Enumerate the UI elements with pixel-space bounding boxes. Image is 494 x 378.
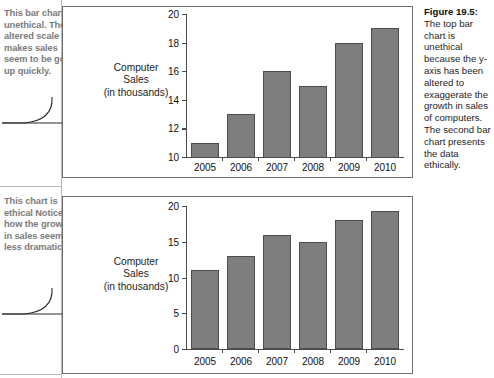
figure-number: Figure 19.5: bbox=[424, 6, 494, 18]
bottom-chart-ylabel-10: 10 bbox=[157, 273, 179, 284]
bottom-chart-ylabel-0: 0 bbox=[157, 344, 179, 355]
figure-caption: Figure 19.5:The top bar chart is unethic… bbox=[424, 6, 494, 186]
top-chart-ytick-12 bbox=[182, 128, 186, 129]
bottom-chart-y-axis bbox=[186, 206, 187, 350]
bottom-chart-xlabel-2009: 2009 bbox=[329, 356, 369, 367]
bottom-chart-ylabel-20: 20 bbox=[157, 201, 179, 212]
bottom-chart-bar-2005 bbox=[191, 270, 219, 349]
page-rule-divider-bottom bbox=[0, 374, 61, 375]
bottom-chart-ytick-15 bbox=[182, 242, 186, 243]
axis-title-line-1: Computer bbox=[88, 256, 184, 268]
top-chart-bar-2006 bbox=[227, 114, 255, 158]
bottom-chart-ytick-5 bbox=[182, 313, 186, 314]
top-chart-ylabel-18: 18 bbox=[157, 38, 179, 49]
top-chart-bar-2007 bbox=[263, 71, 291, 158]
top-chart-ylabel-10: 10 bbox=[157, 152, 179, 163]
top-chart-xtick-0 bbox=[222, 157, 223, 161]
top-chart-xlabel-2009: 2009 bbox=[329, 162, 369, 173]
bottom-chart-bar-2010 bbox=[371, 211, 399, 349]
bottom-chart-ylabel-5: 5 bbox=[157, 308, 179, 319]
top-chart-ytick-14 bbox=[182, 100, 186, 101]
bottom-chart-xtick-4 bbox=[366, 349, 367, 353]
top-chart-ytick-18 bbox=[182, 43, 186, 44]
bottom-chart-xlabel-2008: 2008 bbox=[293, 356, 333, 367]
bottom-chart-xtick-1 bbox=[258, 349, 259, 353]
bottom-chart-xlabel-2006: 2006 bbox=[221, 356, 261, 367]
top-chart-xtick-4 bbox=[366, 157, 367, 161]
top-chart-xlabel-2010: 2010 bbox=[365, 162, 405, 173]
bottom-chart-xtick-3 bbox=[330, 349, 331, 353]
bottom-chart-bar-2009 bbox=[335, 220, 363, 349]
bottom-chart-bar-2007 bbox=[263, 235, 291, 349]
top-chart-bar-2005 bbox=[191, 143, 219, 158]
top-chart-xtick-2 bbox=[294, 157, 295, 161]
top-chart-ylabel-12: 12 bbox=[157, 123, 179, 134]
bottom-chart-bar-2006 bbox=[227, 256, 255, 349]
bottom-chart-ytick-0 bbox=[182, 349, 186, 350]
top-chart-xtick-1 bbox=[258, 157, 259, 161]
bottom-chart-xlabel-2007: 2007 bbox=[257, 356, 297, 367]
top-chart-xlabel-2006: 2006 bbox=[221, 162, 261, 173]
top-chart-ylabel-16: 16 bbox=[157, 66, 179, 77]
bottom-chart-ytick-10 bbox=[182, 278, 186, 279]
top-chart-xtick-3 bbox=[330, 157, 331, 161]
figure-caption-body: The top bar chart is unethical because t… bbox=[424, 18, 491, 171]
bottom-chart-xtick-2 bbox=[294, 349, 295, 353]
top-chart-xlabel-2007: 2007 bbox=[257, 162, 297, 173]
top-chart-ytick-16 bbox=[182, 71, 186, 72]
top-chart-ytick-20 bbox=[182, 14, 186, 15]
bottom-chart-ylabel-15: 15 bbox=[157, 237, 179, 248]
top-chart-ylabel-20: 20 bbox=[157, 9, 179, 20]
top-chart-xlabel-2008: 2008 bbox=[293, 162, 333, 173]
bottom-chart-xlabel-2010: 2010 bbox=[365, 356, 405, 367]
bottom-chart-xtick-0 bbox=[222, 349, 223, 353]
top-chart-y-axis bbox=[186, 14, 187, 158]
top-chart-ytick-10 bbox=[182, 157, 186, 158]
top-chart-bar-2008 bbox=[299, 86, 327, 159]
top-chart-ylabel-14: 14 bbox=[157, 95, 179, 106]
top-chart-xlabel-2005: 2005 bbox=[185, 162, 225, 173]
bottom-chart-bar-2008 bbox=[299, 242, 327, 349]
bottom-chart-xlabel-2005: 2005 bbox=[185, 356, 225, 367]
page-rule-divider-top bbox=[0, 186, 61, 187]
top-chart-bar-2010 bbox=[371, 28, 399, 158]
bottom-chart-ytick-20 bbox=[182, 206, 186, 207]
top-chart-bar-2009 bbox=[335, 43, 363, 158]
